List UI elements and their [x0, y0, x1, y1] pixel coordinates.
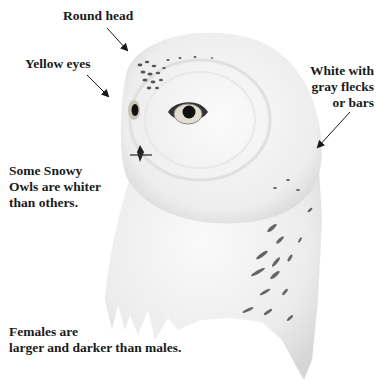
- label-line: gray flecks: [310, 79, 374, 95]
- label-line: larger and darker than males.: [9, 340, 181, 356]
- arrow-white-gray: [318, 112, 350, 147]
- label-line: White with: [310, 63, 374, 79]
- arrow-round-head: [107, 28, 127, 50]
- arrow-yellow-eyes: [87, 75, 108, 96]
- left-eye: [128, 100, 140, 120]
- label-females: Females are larger and darker than males…: [9, 324, 181, 356]
- label-round-head: Round head: [63, 8, 133, 24]
- label-line: Owls are whiter: [9, 179, 101, 195]
- label-line: Some Snowy: [9, 163, 101, 179]
- label-line: Females are: [9, 324, 181, 340]
- label-line: than others.: [9, 195, 101, 211]
- label-line: or bars: [310, 95, 374, 111]
- label-some-whiter: Some Snowy Owls are whiter than others.: [9, 163, 101, 211]
- label-white-gray-flecks: White with gray flecks or bars: [310, 63, 374, 111]
- label-yellow-eyes: Yellow eyes: [25, 56, 91, 72]
